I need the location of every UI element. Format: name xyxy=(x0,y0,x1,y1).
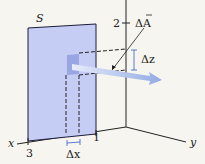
flux-diagram: 2 ΔA Δz 3 1 Δx x y S xyxy=(0,0,205,164)
delta-z-label: Δz xyxy=(141,53,155,66)
surface-s xyxy=(28,24,96,141)
x-axis-label: x xyxy=(8,137,15,150)
delta-z-dimension xyxy=(131,50,137,70)
delta-x-dimension xyxy=(67,139,80,146)
x-tick-1-label: 1 xyxy=(93,131,100,144)
area-vector-label: ΔA xyxy=(135,17,152,30)
z-tick-label: 2 xyxy=(113,17,120,30)
y-axis-label: y xyxy=(189,136,197,149)
leader-line xyxy=(112,28,144,70)
surface-label: S xyxy=(36,12,44,25)
delta-x-label: Δx xyxy=(66,148,81,161)
x-tick-3-label: 3 xyxy=(26,147,33,160)
y-axis xyxy=(126,127,186,142)
